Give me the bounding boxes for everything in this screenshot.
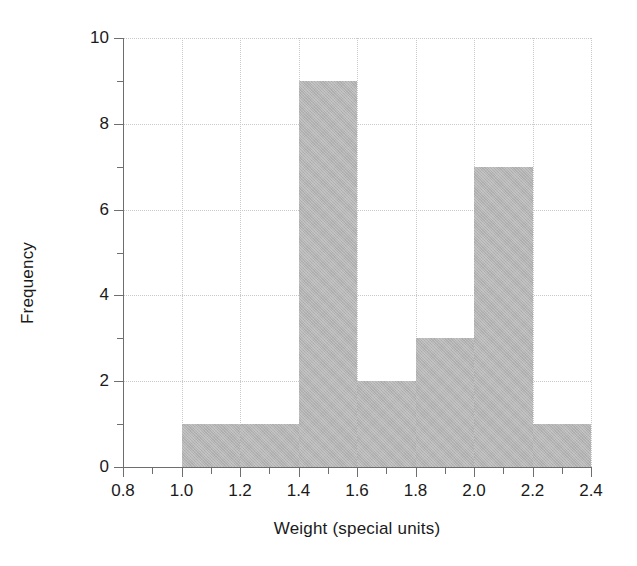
y-tick-minor [117, 424, 123, 425]
gridline-vertical [591, 38, 592, 467]
y-tick-label: 6 [23, 200, 123, 220]
x-tick-major [299, 468, 300, 477]
x-tick-minor [328, 468, 329, 474]
y-tick-label: 10 [23, 28, 123, 48]
x-tick-minor [386, 468, 387, 474]
histogram-bar [416, 338, 475, 467]
y-tick-label: 4 [23, 285, 123, 305]
x-axis-title: Weight (special units) [123, 519, 591, 539]
histogram-bar [182, 424, 241, 467]
x-tick-minor [562, 468, 563, 474]
x-tick-major [357, 468, 358, 477]
y-axis-title: Frequency [0, 0, 56, 566]
y-tick-label: 0 [23, 457, 123, 477]
histogram-bar [533, 424, 592, 467]
y-tick-minor [117, 253, 123, 254]
x-tick-major [591, 468, 592, 477]
x-tick-major [416, 468, 417, 477]
x-tick-major [533, 468, 534, 477]
y-tick-label: 8 [23, 114, 123, 134]
histogram-bar [357, 381, 416, 467]
histogram-bar [474, 167, 533, 467]
x-tick-minor [269, 468, 270, 474]
x-tick-major [123, 468, 124, 477]
x-tick-major [240, 468, 241, 477]
x-tick-label: 2.4 [556, 481, 626, 501]
x-tick-minor [152, 468, 153, 474]
x-tick-minor [211, 468, 212, 474]
y-tick-minor [117, 167, 123, 168]
x-tick-minor [503, 468, 504, 474]
x-tick-major [182, 468, 183, 477]
histogram-bars [123, 38, 591, 467]
histogram-figure: Frequency Weight (special units) 0246810… [0, 0, 637, 566]
x-tick-minor [445, 468, 446, 474]
y-tick-minor [117, 81, 123, 82]
histogram-bar [299, 81, 358, 467]
y-tick-minor [117, 338, 123, 339]
histogram-bar [240, 424, 299, 467]
y-axis-line [123, 38, 124, 468]
y-tick-label: 2 [23, 371, 123, 391]
x-tick-major [474, 468, 475, 477]
plot-area [123, 38, 591, 467]
